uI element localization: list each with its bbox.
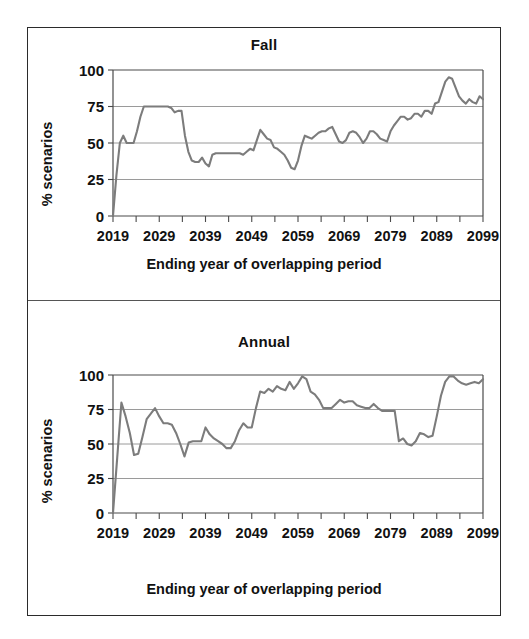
x-axis-label-fall: Ending year of overlapping period: [28, 256, 500, 272]
y-tick-label: 25: [87, 171, 104, 188]
x-tick-label: 2019: [97, 228, 129, 244]
data-series-line: [113, 77, 483, 216]
data-series-line: [113, 376, 483, 513]
y-tick-label: 100: [79, 62, 104, 79]
y-tick-label: 50: [87, 436, 104, 453]
x-tick-label: 2019: [97, 525, 129, 541]
x-tick-label: 2079: [374, 228, 406, 244]
x-tick-label: 2069: [328, 228, 360, 244]
y-tick-label: 100: [79, 367, 104, 384]
x-tick-label: 2079: [374, 525, 406, 541]
panel-fall: Fall % scenarios 02550751002019202920392…: [28, 28, 500, 300]
panel-annual: Annual % scenarios 025507510020192029203…: [28, 301, 500, 615]
plot-area-annual: 0255075100201920292039204920592069207920…: [28, 325, 500, 575]
x-tick-label: 2099: [467, 525, 499, 541]
x-axis-label-annual: Ending year of overlapping period: [28, 581, 500, 597]
y-tick-label: 25: [87, 470, 104, 487]
x-tick-label: 2039: [189, 525, 221, 541]
x-tick-label: 2049: [236, 228, 268, 244]
y-tick-label: 75: [87, 401, 104, 418]
x-tick-label: 2089: [421, 228, 453, 244]
x-tick-label: 2029: [143, 228, 175, 244]
x-tick-label: 2089: [421, 525, 453, 541]
x-tick-label: 2069: [328, 525, 360, 541]
y-tick-label: 0: [96, 208, 104, 225]
y-tick-label: 50: [87, 135, 104, 152]
y-tick-label: 75: [87, 98, 104, 115]
x-tick-label: 2059: [282, 228, 314, 244]
x-tick-label: 2059: [282, 525, 314, 541]
y-tick-label: 0: [96, 505, 104, 522]
x-tick-label: 2029: [143, 525, 175, 541]
x-tick-label: 2049: [236, 525, 268, 541]
figure-container: Fall % scenarios 02550751002019202920392…: [0, 0, 529, 639]
x-tick-label: 2099: [467, 228, 499, 244]
x-tick-label: 2039: [189, 228, 221, 244]
plot-area-fall: 0255075100201920292039204920592069207920…: [28, 28, 500, 253]
